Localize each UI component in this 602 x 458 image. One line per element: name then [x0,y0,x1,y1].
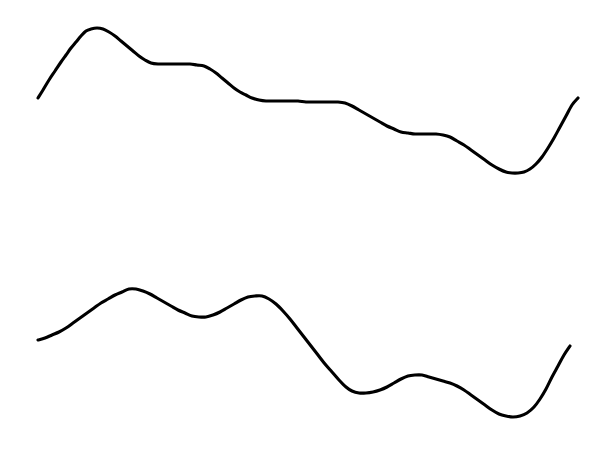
canvas-background [0,0,602,458]
drawing-canvas [0,0,602,458]
sketch-svg [0,0,602,458]
